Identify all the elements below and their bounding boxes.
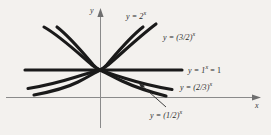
label-two-thirds-x-exponent: x (209, 81, 212, 87)
label-one-x-text: y = 1 (188, 66, 205, 75)
label-two-x: y = 2x (126, 10, 146, 21)
label-one-x-tail: = 1 (208, 66, 221, 75)
label-three-halves-x-text: y = (3/2) (163, 33, 192, 42)
y-axis-arrow-icon (97, 8, 103, 17)
label-two-x-text: y = 2 (126, 12, 143, 21)
label-two-thirds-x: y = (2/3)x (180, 81, 212, 92)
y-axis-label: y (90, 6, 94, 15)
label-one-half-x-text: y = (1/2) (150, 111, 179, 120)
x-axis-arrow-icon (252, 94, 261, 100)
curve-group (25, 24, 182, 96)
label-two-thirds-x-text: y = (2/3) (180, 83, 209, 92)
label-one-half-x: y = (1/2)x (150, 109, 182, 120)
exponential-functions-figure: y x y = 2x y = (3/2)x y = 1x = 1 y = (2/… (0, 0, 271, 135)
x-axis (6, 94, 261, 100)
label-one-half-x-exponent: x (179, 109, 182, 115)
label-three-halves-x-exponent: x (192, 31, 195, 37)
label-one-x: y = 1x = 1 (188, 64, 221, 75)
label-three-halves-x: y = (3/2)x (163, 31, 195, 42)
x-axis-label: x (255, 101, 259, 110)
label-two-x-exponent: x (143, 10, 146, 16)
